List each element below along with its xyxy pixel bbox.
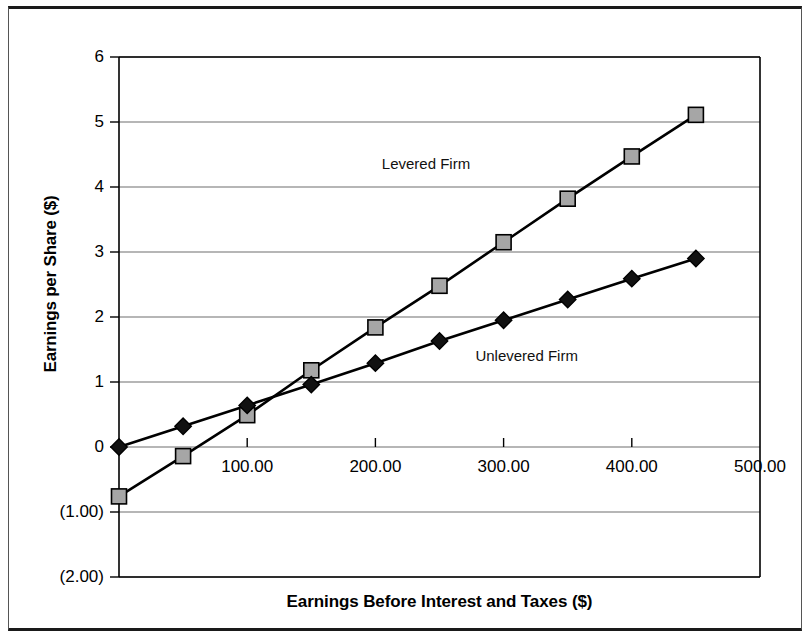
earnings-per-share-line-chart	[0, 0, 810, 642]
y-tick-label: 5	[20, 112, 104, 132]
data-point-square	[112, 489, 127, 504]
x-tick-label: 100.00	[221, 457, 273, 477]
x-tick-label: 500.00	[734, 457, 786, 477]
series-lines	[119, 115, 696, 497]
y-tick-label: (1.00)	[20, 502, 104, 522]
data-point-diamond	[688, 250, 704, 266]
y-tick-label: (2.00)	[20, 567, 104, 587]
x-tick-marks	[247, 438, 632, 447]
x-tick-label: 200.00	[349, 457, 401, 477]
x-tick-label: 400.00	[606, 457, 658, 477]
data-point-square	[688, 107, 703, 122]
data-point-square	[496, 235, 511, 250]
data-point-diamond	[111, 439, 127, 455]
series-line-0	[119, 115, 696, 497]
data-point-diamond	[495, 312, 511, 328]
y-tick-label: 1	[20, 372, 104, 392]
data-point-square	[176, 449, 191, 464]
data-point-square	[624, 149, 639, 164]
series-line-1	[119, 259, 696, 448]
y-tick-label: 3	[20, 242, 104, 262]
y-tick-label: 6	[20, 47, 104, 67]
data-point-square	[432, 278, 447, 293]
data-point-diamond	[431, 333, 447, 349]
x-axis-title: Earnings Before Interest and Taxes ($)	[119, 592, 760, 612]
data-point-diamond	[367, 355, 383, 371]
data-point-diamond	[624, 270, 640, 286]
data-point-diamond	[175, 418, 191, 434]
data-point-square	[560, 191, 575, 206]
series-annotation-levered: Levered Firm	[382, 155, 470, 172]
y-tick-label: 0	[20, 437, 104, 457]
data-point-diamond	[303, 376, 319, 392]
y-axis-title: Earnings per Share ($)	[41, 168, 61, 400]
x-tick-label: 300.00	[478, 457, 530, 477]
y-tick-label: 4	[20, 177, 104, 197]
series-annotation-unlevered: Unlevered Firm	[475, 347, 578, 364]
y-tick-label: 2	[20, 307, 104, 327]
chart-figure: Earnings per Share ($) Earnings Before I…	[0, 0, 810, 642]
data-point-diamond	[560, 291, 576, 307]
data-point-square	[368, 320, 383, 335]
